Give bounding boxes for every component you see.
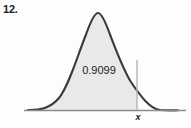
x-axis-boundary-label: x	[130, 112, 146, 123]
figure-panel: 12. 0.9099 x	[0, 0, 191, 128]
shaded-area-value-label: 0.9099	[74, 64, 124, 77]
